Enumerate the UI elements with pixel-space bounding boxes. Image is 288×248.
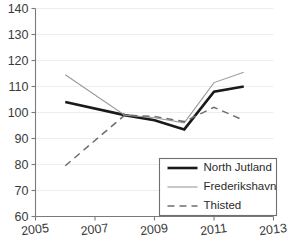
- y-tick-label: 90: [15, 132, 29, 146]
- y-tick-label: 110: [9, 80, 29, 94]
- series-line-frederikshavn: [65, 72, 244, 123]
- legend-label-frederikshavn: Frederikshavn: [204, 180, 277, 192]
- x-tick-label: 2013: [258, 221, 287, 238]
- x-axis-ticks: [36, 217, 274, 221]
- x-tick-label: 2007: [80, 221, 109, 238]
- y-tick-label: 100: [8, 106, 29, 120]
- y-tick-label: 130: [8, 28, 29, 42]
- y-tick-label: 80: [15, 158, 29, 172]
- chart-svg: 60708090100110120130140 2005200720092011…: [0, 0, 288, 248]
- y-tick-label: 70: [15, 184, 29, 198]
- chart-legend: North JutlandFrederikshavnThisted: [160, 159, 277, 216]
- y-axis-ticks: [32, 9, 36, 217]
- series-line-thisted: [65, 107, 244, 166]
- legend-label-thisted: Thisted: [204, 199, 242, 211]
- x-axis-tick-labels: 20052007200920112013: [20, 221, 287, 238]
- y-tick-label: 120: [8, 54, 29, 68]
- y-tick-label: 140: [8, 2, 29, 16]
- line-chart: 60708090100110120130140 2005200720092011…: [0, 0, 288, 248]
- y-axis-tick-labels: 60708090100110120130140: [8, 2, 29, 224]
- x-tick-label: 2005: [20, 221, 49, 238]
- legend-label-north-jutland: North Jutland: [204, 161, 272, 173]
- x-tick-label: 2011: [199, 221, 227, 238]
- y-tick-label: 60: [15, 210, 29, 224]
- x-tick-label: 2009: [139, 221, 168, 238]
